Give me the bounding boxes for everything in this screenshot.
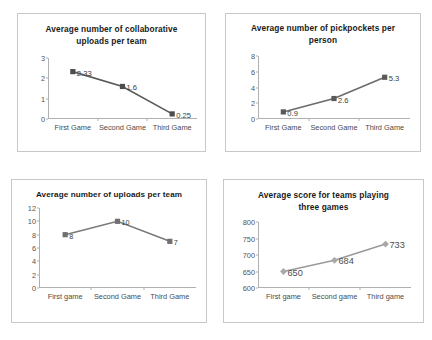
data-point-label: 2.33 (77, 68, 92, 77)
data-point-label: 0.9 (287, 108, 298, 117)
data-point-label: 684 (339, 256, 354, 266)
plot-area-collaborative-uploads: 0123First GameSecond GameThird Game2.331… (48, 58, 197, 119)
y-axis-tick-label: 1 (41, 94, 45, 103)
chart-title-line1: Average score for teams playing (258, 190, 389, 200)
data-point-label: 0.25 (176, 110, 191, 119)
y-axis-tick-label: 800 (243, 218, 255, 227)
data-point-marker (120, 84, 125, 89)
y-axis-tick-label: 750 (243, 234, 255, 243)
x-axis-tick-label: Second game (312, 292, 358, 301)
chart-cell-collaborative-uploads: Average number of collaborative uploads … (0, 0, 216, 170)
y-axis-tick-label: 700 (243, 251, 255, 260)
y-axis-tick-label: 6 (32, 244, 36, 253)
chart-title-line1: Average number of collaborative (46, 24, 178, 34)
chart-cell-pickpockets: Average number of pickpockets per person… (216, 0, 432, 170)
y-axis-tick-label: 650 (243, 267, 255, 276)
chart-cell-uploads-per-team: Average number of uploads per team 02468… (0, 170, 216, 340)
data-point-label: 2.6 (338, 95, 349, 104)
data-series-line (39, 208, 196, 288)
data-point-marker (281, 109, 286, 114)
data-point-marker (70, 69, 75, 74)
y-axis-tick-label: 4 (251, 83, 255, 92)
data-point-marker (170, 111, 175, 116)
x-axis-tick-label: Third Game (150, 292, 189, 301)
data-point-label: 5.3 (389, 74, 400, 83)
data-point-label: 650 (288, 268, 303, 278)
y-axis-tick-label: 0 (251, 115, 255, 124)
data-point-marker (382, 241, 389, 248)
y-axis-tick-label: 8 (251, 52, 255, 61)
data-point-label: 10 (122, 218, 130, 227)
x-axis-tick-label: Second Game (99, 123, 146, 132)
x-axis-tick-label: First Game (55, 123, 92, 132)
chart-panel-average-score[interactable]: Average score for teams playing three ga… (223, 179, 424, 323)
data-point-marker (382, 75, 387, 80)
y-axis-tick-label: 6 (251, 67, 255, 76)
chart-title-pickpockets: Average number of pickpockets per person (226, 23, 420, 46)
x-axis-tick-label: First Game (265, 123, 302, 132)
y-axis-tick-label: 8 (32, 230, 36, 239)
data-point-marker (167, 239, 172, 244)
chart-title-line2: three games (299, 202, 349, 212)
data-point-marker (63, 232, 68, 237)
x-axis-tick-label: Third Game (365, 123, 404, 132)
data-series-line (258, 222, 411, 288)
chart-title-collaborative-uploads: Average number of collaborative uploads … (18, 24, 205, 47)
y-axis-tick-label: 2 (41, 74, 45, 83)
chart-title-line2: person (309, 35, 337, 45)
y-axis-tick-label: 12 (28, 204, 36, 213)
data-point-label: 8 (69, 231, 73, 240)
y-axis-tick-label: 3 (41, 54, 45, 63)
chart-panel-pickpockets[interactable]: Average number of pickpockets per person… (225, 13, 421, 152)
x-axis-tick-label: Second Game (310, 123, 357, 132)
plot-area-uploads-per-team: 024681012First gameSecond GameThird Game… (39, 208, 196, 288)
x-axis-tick-label: Second Game (94, 292, 141, 301)
chart-title-line1: Average number of uploads per team (36, 190, 182, 199)
chart-cell-average-score: Average score for teams playing three ga… (216, 170, 432, 340)
data-series-line (48, 58, 197, 119)
x-axis-tick-label: Third Game (153, 123, 192, 132)
data-point-marker (280, 268, 287, 275)
data-point-marker (331, 96, 336, 101)
x-axis-tick-label: Third game (367, 292, 404, 301)
y-axis-tick-label: 0 (32, 284, 36, 293)
chart-panel-collaborative-uploads[interactable]: Average number of collaborative uploads … (17, 13, 206, 152)
data-point-label: 733 (390, 240, 405, 250)
y-axis-tick-label: 600 (243, 284, 255, 293)
data-point-marker (115, 219, 120, 224)
chart-grid: Average number of collaborative uploads … (0, 0, 432, 340)
chart-title-uploads-per-team: Average number of uploads per team (12, 189, 206, 201)
plot-area-pickpockets: 02468First GameSecond GameThird Game0.92… (258, 56, 410, 119)
y-axis-tick-label: 2 (251, 99, 255, 108)
y-axis-tick-label: 10 (28, 217, 36, 226)
plot-area-average-score: 600650700750800First gameSecond gameThir… (258, 222, 411, 288)
data-point-marker (331, 257, 338, 264)
y-axis-tick-label: 0 (41, 115, 45, 124)
chart-panel-uploads-per-team[interactable]: Average number of uploads per team 02468… (11, 179, 207, 323)
y-axis-tick-label: 2 (32, 270, 36, 279)
x-axis-tick-label: First game (48, 292, 83, 301)
chart-title-line2: uploads per team (76, 36, 146, 46)
data-point-label: 1.6 (127, 83, 138, 92)
chart-title-average-score: Average score for teams playing three ga… (224, 190, 423, 213)
x-axis-tick-label: First game (266, 292, 301, 301)
data-point-label: 7 (174, 238, 178, 247)
data-series-line (258, 56, 410, 119)
chart-title-line1: Average number of pickpockets per (251, 23, 395, 33)
y-axis-tick-label: 4 (32, 257, 36, 266)
